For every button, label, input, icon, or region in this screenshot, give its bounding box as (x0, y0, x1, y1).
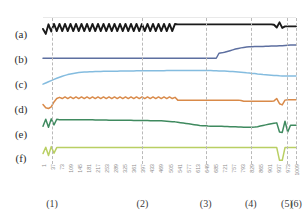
x-tick-label: 865 (258, 164, 264, 173)
x-tick-label: 721 (222, 164, 228, 173)
x-tick-label: 685 (213, 164, 219, 173)
x-tick-label: 325 (122, 164, 128, 173)
trace-f (43, 147, 296, 161)
x-axis-tick-strip: 1377310914518121725328932536139743346950… (43, 164, 296, 198)
panel-label-f: (f) (4, 152, 38, 164)
x-tick-label: 901 (267, 164, 273, 173)
plot-area (43, 17, 296, 164)
event-marker-1: (1) (46, 198, 58, 209)
x-tick-label: 1 (41, 164, 47, 167)
event-marker-4: (4) (245, 198, 257, 209)
x-tick-label: 757 (231, 164, 237, 173)
x-tick-label: 289 (113, 164, 119, 173)
panel-label-e: (e) (4, 128, 38, 140)
panel-label-b: (b) (4, 53, 38, 65)
x-tick-label: 73 (59, 164, 65, 170)
event-line-1 (52, 18, 53, 164)
x-tick-label: 937 (276, 164, 282, 173)
event-line-6 (296, 18, 297, 164)
event-marker-3: (3) (200, 198, 212, 209)
trace-c (43, 71, 296, 85)
x-tick-label: 217 (95, 164, 101, 173)
x-tick-label: 793 (240, 164, 246, 173)
trace-b (43, 45, 296, 58)
x-tick-label: 649 (204, 164, 210, 173)
x-tick-label: 361 (131, 164, 137, 173)
x-tick-label: 577 (186, 164, 192, 173)
x-tick-label: 253 (104, 164, 110, 173)
trace-d (43, 97, 296, 109)
x-tick-label: 541 (177, 164, 183, 173)
trace-a (43, 22, 296, 34)
x-tick-label: 469 (158, 164, 164, 173)
event-marker-2: (2) (137, 198, 149, 209)
x-tick-label: 109 (68, 164, 74, 173)
event-line-5 (287, 18, 288, 164)
x-tick-label: 973 (285, 164, 291, 173)
event-marker-6: (6) (290, 198, 302, 209)
x-tick-label: 1009 (294, 164, 300, 176)
x-tick-label: 181 (86, 164, 92, 173)
x-tick-label: 37 (50, 164, 56, 170)
x-tick-label: 829 (249, 164, 255, 173)
panel-label-a: (a) (4, 28, 38, 40)
event-line-2 (142, 18, 143, 164)
panel-label-d: (d) (4, 103, 38, 115)
trace-e (43, 119, 296, 133)
x-tick-label: 613 (195, 164, 201, 173)
event-line-4 (251, 18, 252, 164)
panel-label-c: (c) (4, 78, 38, 90)
x-tick-label: 397 (140, 164, 146, 173)
event-marker-strip: (1)(2)(3)(4)(5)(6) (43, 198, 296, 218)
x-tick-label: 145 (77, 164, 83, 173)
event-line-3 (206, 18, 207, 164)
multi-panel-timeseries-chart: (a) (b) (c) (d) (e) (f) 1377310914518121… (0, 0, 306, 222)
trace-canvas (43, 18, 296, 164)
x-tick-label: 505 (168, 164, 174, 173)
x-tick-label: 433 (149, 164, 155, 173)
